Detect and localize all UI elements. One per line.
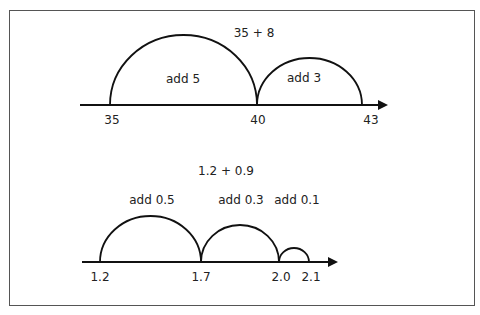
- tick-label: 2.0: [271, 270, 290, 284]
- arrow-head-icon: [328, 257, 338, 267]
- equation-title: 35 + 8: [234, 26, 275, 40]
- jump-label: add 0.5: [129, 193, 175, 207]
- jump-label: add 0.1: [274, 193, 320, 207]
- tick-label: 35: [104, 113, 119, 127]
- jump-label: add 3: [287, 71, 321, 85]
- number-line-bottom: [82, 216, 338, 267]
- tick-label: 1.7: [191, 270, 210, 284]
- jump-label: add 5: [166, 72, 200, 86]
- jump-label: add 0.3: [218, 193, 264, 207]
- jump-arc: [100, 216, 201, 262]
- tick-label: 1.2: [90, 270, 109, 284]
- tick-label: 43: [363, 113, 378, 127]
- equation-title: 1.2 + 0.9: [198, 164, 254, 178]
- tick-label: 2.1: [301, 270, 320, 284]
- jump-arc: [201, 225, 279, 262]
- arrow-head-icon: [378, 100, 388, 110]
- tick-label: 40: [250, 113, 265, 127]
- jump-arc: [279, 248, 309, 262]
- number-lines-svg: [0, 0, 480, 315]
- number-line-top: [80, 35, 388, 110]
- jump-arc: [110, 35, 257, 105]
